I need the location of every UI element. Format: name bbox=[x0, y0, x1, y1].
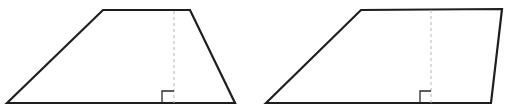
right-angle-marker-right bbox=[420, 91, 431, 103]
right-angle-marker-left bbox=[162, 91, 174, 103]
trapezoid-right-group bbox=[266, 9, 502, 103]
trapezoid-right bbox=[266, 9, 502, 103]
trapezoid-left bbox=[7, 10, 235, 103]
trapezoid-diagram bbox=[0, 0, 506, 110]
trapezoid-left-group bbox=[7, 10, 235, 103]
